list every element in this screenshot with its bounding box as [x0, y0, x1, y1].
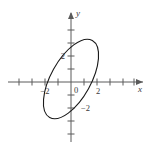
x-tick-label-negative-2: −2 — [40, 86, 49, 96]
y-axis-label: y — [75, 8, 80, 18]
x-tick-label-2: 2 — [96, 86, 100, 96]
origin-label: 0 — [74, 85, 78, 95]
y-axis — [68, 12, 75, 142]
coordinate-plot: y x 0 −2 2 2 −2 — [0, 0, 155, 148]
graph-figure: y x 0 −2 2 2 −2 — [0, 0, 155, 148]
y-axis-arrowhead — [68, 12, 74, 19]
y-tick-label-2: 2 — [61, 51, 65, 61]
x-axis-label: x — [137, 84, 142, 94]
y-tick-label-negative-2: −2 — [81, 103, 90, 113]
